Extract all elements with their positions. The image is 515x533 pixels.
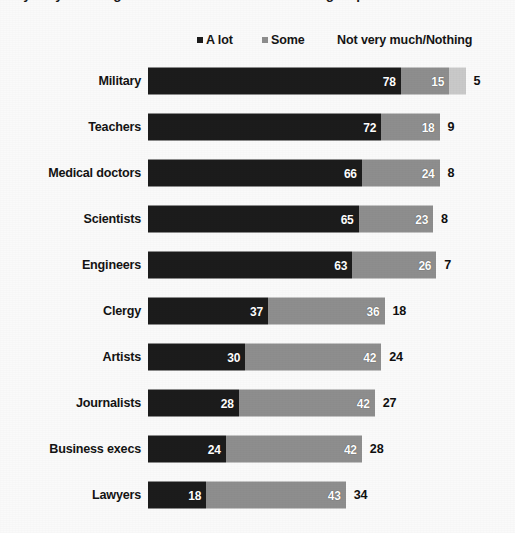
bar-value-a-lot: 72 <box>363 120 376 134</box>
bar-value-a-lot: 18 <box>188 488 201 502</box>
bar-segment-a-lot: 66 <box>148 160 362 187</box>
bar-track: 2442 <box>148 436 472 463</box>
bar-segment-some: 23 <box>359 206 434 233</box>
chart-row: Teachers72189 <box>0 104 515 150</box>
bar-value-some: 15 <box>431 74 444 88</box>
bar-segment-not-very-much-nothing <box>449 68 465 95</box>
bar-track: 6523 <box>148 206 472 233</box>
bar-value-some: 42 <box>357 396 370 410</box>
row-label-medical-doctors: Medical doctors <box>0 166 141 180</box>
bar-segment-some: 43 <box>206 482 345 509</box>
bar-value-not-very-much-nothing: 8 <box>441 212 448 226</box>
bar-segment-some: 42 <box>239 390 375 417</box>
bar-segment-a-lot: 37 <box>148 298 268 325</box>
chart-row: Scientists65238 <box>0 196 515 242</box>
bar-track: 7815 <box>148 68 472 95</box>
chart-row: Military78155 <box>0 58 515 104</box>
bar-track: 7218 <box>148 114 472 141</box>
bar-segment-a-lot: 65 <box>148 206 359 233</box>
bar-segment-a-lot: 30 <box>148 344 245 371</box>
legend-swatch-a-lot <box>197 37 203 43</box>
bar-value-not-very-much-nothing: 9 <box>448 120 455 134</box>
bar-value-some: 24 <box>422 166 435 180</box>
bar-value-not-very-much-nothing: 27 <box>383 396 397 410</box>
bar-value-not-very-much-nothing: 34 <box>354 488 368 502</box>
chart-row: Artists304224 <box>0 334 515 380</box>
page-title: say they have a great deal of confidence… <box>8 0 365 2</box>
bar-track: 6326 <box>148 252 472 279</box>
legend-label-a-lot: A lot <box>206 33 233 47</box>
chart-row: Journalists284227 <box>0 380 515 426</box>
bar-track: 3042 <box>148 344 472 371</box>
bar-value-a-lot: 78 <box>383 74 396 88</box>
chart-legend: A lot Some Not very much/Nothing <box>0 31 515 51</box>
bar-value-some: 42 <box>363 350 376 364</box>
row-label-scientists: Scientists <box>0 212 141 226</box>
bar-segment-some: 15 <box>401 68 450 95</box>
row-label-journalists: Journalists <box>0 396 141 410</box>
bar-value-not-very-much-nothing: 18 <box>393 304 407 318</box>
bar-segment-a-lot: 28 <box>148 390 239 417</box>
chart-row: Business execs244228 <box>0 426 515 472</box>
bar-value-a-lot: 30 <box>227 350 240 364</box>
legend-label-some: Some <box>271 33 305 47</box>
bar-segment-a-lot: 78 <box>148 68 401 95</box>
row-label-lawyers: Lawyers <box>0 488 141 502</box>
bar-segment-some: 42 <box>245 344 381 371</box>
bar-value-a-lot: 37 <box>250 304 263 318</box>
bar-segment-a-lot: 24 <box>148 436 226 463</box>
row-label-teachers: Teachers <box>0 120 141 134</box>
chart-row: Clergy373618 <box>0 288 515 334</box>
bar-value-a-lot: 63 <box>334 258 347 272</box>
chart-plot-area: Military78155Teachers72189Medical doctor… <box>0 58 515 528</box>
bar-value-some: 42 <box>344 442 357 456</box>
chart-row: Engineers63267 <box>0 242 515 288</box>
bar-value-a-lot: 24 <box>208 442 221 456</box>
bar-segment-some: 36 <box>268 298 385 325</box>
bar-segment-a-lot: 18 <box>148 482 206 509</box>
bar-segment-some: 18 <box>381 114 439 141</box>
bar-value-not-very-much-nothing: 5 <box>474 74 481 88</box>
bar-segment-a-lot: 72 <box>148 114 381 141</box>
row-label-engineers: Engineers <box>0 258 141 272</box>
chart-title-strip: say they have a great deal of confidence… <box>0 0 515 14</box>
bar-value-a-lot: 66 <box>344 166 357 180</box>
chart-row: Medical doctors66248 <box>0 150 515 196</box>
bar-track: 2842 <box>148 390 472 417</box>
row-label-artists: Artists <box>0 350 141 364</box>
legend-item-a-lot: A lot <box>197 33 233 47</box>
bar-track: 3736 <box>148 298 472 325</box>
bar-value-not-very-much-nothing: 28 <box>370 442 384 456</box>
chart-row: Lawyers184334 <box>0 472 515 518</box>
row-label-military: Military <box>0 74 141 88</box>
legend-label-not-very-much-nothing: Not very much/Nothing <box>337 33 472 47</box>
bar-value-not-very-much-nothing: 24 <box>389 350 403 364</box>
legend-item-some: Some <box>262 33 305 47</box>
legend-swatch-some <box>262 37 268 43</box>
bar-value-some: 36 <box>367 304 380 318</box>
bar-track: 1843 <box>148 482 472 509</box>
bar-value-not-very-much-nothing: 8 <box>448 166 455 180</box>
row-label-clergy: Clergy <box>0 304 141 318</box>
bar-segment-a-lot: 63 <box>148 252 352 279</box>
bar-segment-some: 26 <box>352 252 436 279</box>
bar-value-some: 43 <box>328 488 341 502</box>
bar-value-a-lot: 65 <box>341 212 354 226</box>
bar-value-some: 26 <box>418 258 431 272</box>
legend-item-not-very-much-nothing: Not very much/Nothing <box>337 33 472 47</box>
row-label-business-execs: Business execs <box>0 442 141 456</box>
bar-track: 6624 <box>148 160 472 187</box>
bar-segment-some: 42 <box>226 436 362 463</box>
bar-value-some: 18 <box>422 120 435 134</box>
bar-segment-some: 24 <box>362 160 440 187</box>
bar-value-a-lot: 28 <box>221 396 234 410</box>
bar-value-not-very-much-nothing: 7 <box>444 258 451 272</box>
bar-value-some: 23 <box>415 212 428 226</box>
